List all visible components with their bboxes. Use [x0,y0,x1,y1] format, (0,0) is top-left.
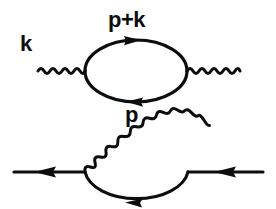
momentum-label-k: k [20,33,32,55]
feynman-diagram-figure: k p+k p [0,0,276,209]
momentum-label-p-plus-k: p+k [108,9,145,31]
loop-bottom-arc [85,172,188,199]
incoming-photon-line [38,69,85,74]
incoming-line-arrow-icon [34,167,56,178]
photon-arc [85,108,210,172]
momentum-label-p: p [125,104,138,126]
outgoing-photon-line [187,69,240,74]
loop-top-arc [85,40,187,71]
loop-bottom-arc [85,71,187,102]
diagram-electron-self-energy [14,108,263,207]
outgoing-line-arrow-icon [214,167,236,178]
top-arc-arrow-icon [124,36,141,45]
diagram-photon-self-energy [38,36,240,107]
